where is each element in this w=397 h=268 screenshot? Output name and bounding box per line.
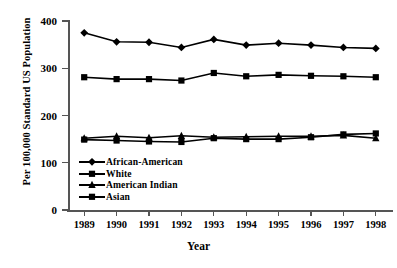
x-tick-label: 1998 xyxy=(365,219,386,230)
legend-label: Asian xyxy=(106,191,130,202)
series-african-american xyxy=(80,29,379,52)
series-american-indian xyxy=(81,131,380,141)
data-point-square xyxy=(114,137,120,143)
legend: African-AmericanWhiteAmerican IndianAsia… xyxy=(79,156,183,202)
data-point-triangle xyxy=(88,181,95,188)
x-tick xyxy=(310,210,311,216)
x-tick xyxy=(116,210,117,216)
legend-marker-square xyxy=(79,191,105,202)
data-point-square xyxy=(178,139,184,145)
x-tick-label: 1990 xyxy=(106,219,127,230)
data-point-diamond xyxy=(145,38,153,46)
data-point-square xyxy=(373,74,379,80)
data-point-diamond xyxy=(275,39,283,47)
data-point-square xyxy=(89,194,95,200)
x-tick xyxy=(213,210,214,216)
x-tick-label: 1993 xyxy=(203,219,224,230)
x-tick-label: 1995 xyxy=(268,219,289,230)
y-tick-label: 300 xyxy=(41,62,58,74)
data-point-diamond xyxy=(80,29,88,37)
x-tick xyxy=(343,210,344,216)
legend-label: American Indian xyxy=(106,179,178,190)
series-white xyxy=(81,70,379,84)
legend-marker-diamond xyxy=(79,156,105,167)
y-tick-label: 400 xyxy=(41,15,58,27)
data-point-square xyxy=(146,138,152,144)
data-point-square xyxy=(340,73,346,79)
legend-marker-square xyxy=(79,168,105,179)
data-point-diamond xyxy=(88,158,96,166)
data-point-diamond xyxy=(307,41,315,49)
x-tick-label: 1997 xyxy=(333,219,354,230)
data-point-square xyxy=(276,136,282,142)
data-point-square xyxy=(89,171,95,177)
line-chart: Per 100,000 Standard US Population 01002… xyxy=(0,0,397,268)
x-tick-label: 1994 xyxy=(236,219,257,230)
legend-item: White xyxy=(79,168,183,180)
x-tick xyxy=(278,210,279,216)
x-tick-label: 1992 xyxy=(171,219,192,230)
x-tick xyxy=(84,210,85,216)
x-tick xyxy=(246,210,247,216)
legend-label: African-American xyxy=(106,156,183,167)
data-point-diamond xyxy=(210,36,218,44)
data-point-diamond xyxy=(340,44,348,52)
data-point-square xyxy=(81,74,87,80)
legend-marker-triangle xyxy=(79,179,105,190)
data-point-diamond xyxy=(178,44,186,52)
data-point-square xyxy=(211,70,217,76)
data-point-square xyxy=(243,73,249,79)
data-point-diamond xyxy=(113,38,121,46)
x-tick-label: 1991 xyxy=(139,219,160,230)
series-line xyxy=(84,73,376,81)
data-point-square xyxy=(81,136,87,142)
y-axis-title: Per 100,000 Standard US Population xyxy=(21,2,32,202)
data-point-square xyxy=(373,130,379,136)
x-tick xyxy=(375,210,376,216)
data-point-square xyxy=(114,76,120,82)
data-point-square xyxy=(178,77,184,83)
y-tick-label: 0 xyxy=(52,204,58,216)
data-point-square xyxy=(211,135,217,141)
data-point-square xyxy=(146,76,152,82)
legend-item: African-American xyxy=(79,156,183,168)
data-point-diamond xyxy=(242,41,250,49)
y-tick-label: 100 xyxy=(41,157,58,169)
data-point-square xyxy=(308,73,314,79)
data-point-square xyxy=(340,131,346,137)
y-tick-label: 200 xyxy=(41,110,58,122)
x-tick xyxy=(181,210,182,216)
data-point-diamond xyxy=(372,45,380,53)
data-point-square xyxy=(276,72,282,78)
legend-label: White xyxy=(106,168,132,179)
x-axis-title: Year xyxy=(0,240,397,252)
x-tick-label: 1996 xyxy=(301,219,322,230)
series-line xyxy=(84,33,376,49)
legend-item: American Indian xyxy=(79,179,183,191)
x-tick-label: 1989 xyxy=(74,219,95,230)
x-tick xyxy=(148,210,149,216)
data-point-square xyxy=(308,134,314,140)
data-point-square xyxy=(243,136,249,142)
legend-item: Asian xyxy=(79,191,183,203)
